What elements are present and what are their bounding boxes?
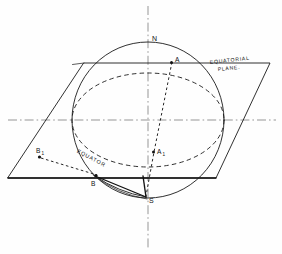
diagram-canvas: N S A A 1 B B 1 EQUATORIAL PLANE. EQUATO…: [0, 0, 282, 254]
label-north-pole: N: [152, 35, 157, 42]
label-point-b1-group: B 1: [36, 147, 45, 156]
label-point-a1: A: [157, 148, 162, 155]
label-point-b1-subscript: 1: [42, 151, 45, 156]
point-marker-a: [170, 61, 173, 64]
equatorial-plane-parallelogram: [8, 63, 270, 178]
point-marker-a1: [152, 151, 155, 154]
label-point-a: A: [175, 56, 180, 63]
label-equatorial-plane-group: EQUATORIAL PLANE.: [210, 55, 251, 73]
label-equatorial-plane-line2: PLANE.: [217, 64, 240, 72]
equatorial-plane-diagram: N S A A 1 B B 1 EQUATORIAL PLANE. EQUATO…: [0, 0, 282, 254]
label-point-b: B: [91, 180, 96, 187]
label-point-a1-group: A 1: [157, 148, 166, 157]
point-marker-b: [94, 174, 97, 177]
label-point-a1-subscript: 1: [163, 152, 166, 157]
label-equator-group: EQUATOR: [76, 148, 107, 168]
meridian-stub-at-s: [143, 176, 146, 197]
plane-corner-notch: [73, 63, 85, 65]
projection-ray-a-to-s: [146, 62, 172, 196]
chord-b-to-s: [95, 176, 146, 197]
label-equator: EQUATOR: [76, 148, 107, 168]
label-south-pole: S: [149, 197, 154, 204]
label-point-b1: B: [36, 147, 41, 154]
projection-ray-b1-to-b: [41, 158, 97, 175]
